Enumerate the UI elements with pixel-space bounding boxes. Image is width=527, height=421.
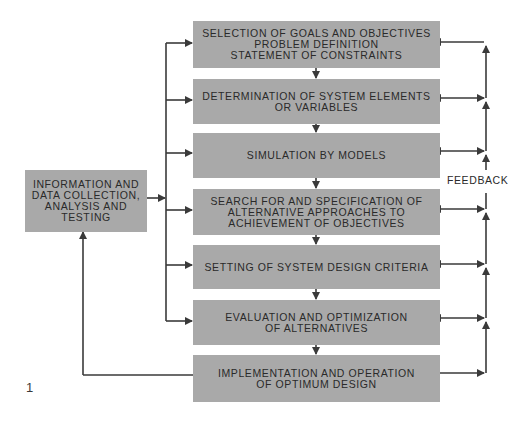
step-label: IMPLEMENTATION AND OPERATION OF OPTIMUM … (218, 368, 415, 390)
step-label: DETERMINATION OF SYSTEM ELEMENTS OR VARI… (202, 91, 430, 113)
figure-number: 1 (26, 380, 33, 395)
step-label: EVALUATION AND OPTIMIZATION OF ALTERNATI… (225, 312, 407, 334)
step-box-evaluation-optimization: EVALUATION AND OPTIMIZATION OF ALTERNATI… (193, 300, 440, 345)
step-label: SELECTION OF GOALS AND OBJECTIVES PROBLE… (202, 28, 431, 61)
step-box-search-alternatives: SEARCH FOR AND SPECIFICATION OF ALTERNAT… (193, 189, 440, 235)
feedback-label: FEEDBACK (447, 174, 508, 186)
step-box-goals-objectives: SELECTION OF GOALS AND OBJECTIVES PROBLE… (193, 21, 440, 68)
step-box-implementation: IMPLEMENTATION AND OPERATION OF OPTIMUM … (193, 355, 440, 402)
step-label: SETTING OF SYSTEM DESIGN CRITERIA (205, 262, 429, 273)
step-box-simulation: SIMULATION BY MODELS (193, 133, 440, 178)
step-label: SEARCH FOR AND SPECIFICATION OF ALTERNAT… (210, 196, 422, 229)
step-label: SIMULATION BY MODELS (247, 150, 386, 161)
source-box-label: INFORMATION AND DATA COLLECTION, ANALYSI… (32, 179, 140, 223)
source-box-information-data-collection: INFORMATION AND DATA COLLECTION, ANALYSI… (25, 170, 147, 232)
step-box-system-elements: DETERMINATION OF SYSTEM ELEMENTS OR VARI… (193, 79, 440, 124)
step-box-design-criteria: SETTING OF SYSTEM DESIGN CRITERIA (193, 245, 440, 289)
